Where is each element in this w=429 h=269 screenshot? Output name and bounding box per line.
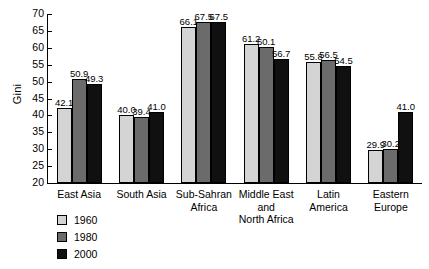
bar-value-label: 41.0 — [147, 102, 166, 112]
bar: 41.0 — [149, 112, 164, 183]
bar: 56.5 — [321, 60, 336, 183]
x-axis-line — [47, 183, 422, 184]
bar: 42.1 — [57, 108, 72, 183]
bar-group: 55.856.554.5 — [297, 14, 359, 183]
legend-item[interactable]: 1960 — [57, 212, 97, 227]
bar-value-label: 49.3 — [85, 74, 104, 84]
bar: 60.1 — [259, 47, 274, 183]
y-axis-title: Gini — [11, 64, 23, 124]
y-tick-label: 55 — [32, 58, 44, 71]
x-category-label: Latin America — [297, 188, 359, 226]
bar: 67.5 — [196, 22, 211, 183]
bar: 50.9 — [72, 79, 87, 183]
bar: 55.8 — [306, 62, 321, 183]
bar-group: 40.039.441.0 — [110, 14, 172, 183]
bar-group: 61.260.156.7 — [235, 14, 297, 183]
legend-item[interactable]: 1980 — [57, 229, 97, 244]
bar: 66.1 — [181, 27, 196, 183]
legend-swatch-icon — [57, 249, 67, 259]
bar: 67.5 — [211, 22, 226, 183]
x-category-label: Sub-Sahran Africa — [173, 188, 235, 226]
legend-label: 1980 — [74, 231, 97, 243]
y-tick-label: 60 — [32, 41, 44, 54]
y-tick-label: 70 — [32, 7, 44, 20]
plot-area: 2025303540455055606570 42.150.949.340.03… — [47, 14, 422, 184]
legend: 196019802000 — [57, 212, 97, 263]
bar: 61.2 — [244, 44, 259, 183]
bar-group: 29.930.241.0 — [360, 14, 422, 183]
bar-value-label: 67.5 — [210, 12, 229, 22]
y-tick-label: 35 — [32, 125, 44, 138]
y-tick-label: 45 — [32, 92, 44, 105]
x-category-label: Eastern Europe — [360, 188, 422, 226]
y-tick-label: 25 — [32, 159, 44, 172]
bar-value-label: 56.7 — [272, 49, 291, 59]
bar-value-label: 60.1 — [257, 37, 276, 47]
bar: 40.0 — [119, 115, 134, 183]
bar: 56.7 — [274, 59, 289, 183]
bar: 54.5 — [336, 66, 351, 183]
gini-bar-chart: Gini 2025303540455055606570 42.150.949.3… — [0, 0, 429, 269]
y-tick-label: 30 — [32, 142, 44, 155]
y-tick-label: 20 — [32, 176, 44, 189]
x-axis-category-labels: East AsiaSouth AsiaSub-Sahran AfricaMidd… — [48, 188, 422, 226]
x-category-label: Middle East and North Africa — [235, 188, 297, 226]
bar: 39.4 — [134, 117, 149, 183]
bar: 30.2 — [383, 149, 398, 183]
bar: 29.9 — [368, 150, 383, 183]
legend-item[interactable]: 2000 — [57, 246, 97, 261]
y-tick-mark — [48, 183, 52, 184]
bar-value-label: 30.2 — [382, 139, 401, 149]
bar-value-label: 54.5 — [334, 56, 353, 66]
legend-label: 2000 — [74, 248, 97, 260]
x-category-label: South Asia — [110, 188, 172, 226]
bar-value-label: 41.0 — [397, 102, 416, 112]
legend-swatch-icon — [57, 232, 67, 242]
y-tick-label: 50 — [32, 75, 44, 88]
bar-groups: 42.150.949.340.039.441.066.167.567.561.2… — [48, 14, 422, 183]
bar: 49.3 — [87, 84, 102, 183]
y-tick-label: 65 — [32, 24, 44, 37]
bar-value-label: 42.1 — [55, 98, 74, 108]
legend-label: 1960 — [74, 214, 97, 226]
y-tick-label: 40 — [32, 108, 44, 121]
bar: 41.0 — [398, 112, 413, 183]
bar-group: 42.150.949.3 — [48, 14, 110, 183]
bar-group: 66.167.567.5 — [173, 14, 235, 183]
legend-swatch-icon — [57, 215, 67, 225]
